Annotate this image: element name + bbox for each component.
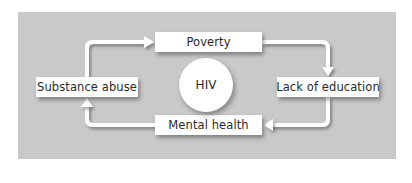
arrow-mental-to-substance [87, 106, 155, 125]
node-poverty: Poverty [155, 32, 262, 52]
center-label: HIV [196, 78, 217, 92]
node-label: Lack of education [276, 80, 380, 94]
node-substance-abuse: Substance abuse [36, 77, 138, 97]
arrow-substance-to-poverty [87, 42, 146, 77]
node-mental-health: Mental health [155, 115, 262, 135]
arrowhead-down-icon [322, 67, 334, 76]
center-node-hiv: HIV [179, 58, 233, 112]
node-label: Poverty [186, 35, 230, 49]
arrow-education-to-mental [271, 97, 328, 125]
arrowhead-right-icon [144, 36, 154, 48]
arrowhead-up-icon [81, 98, 93, 107]
arrowhead-left-icon [264, 119, 273, 131]
node-label: Substance abuse [37, 80, 137, 94]
node-label: Mental health [168, 118, 248, 132]
arrow-poverty-to-education [262, 42, 328, 68]
node-lack-of-education: Lack of education [277, 77, 379, 97]
